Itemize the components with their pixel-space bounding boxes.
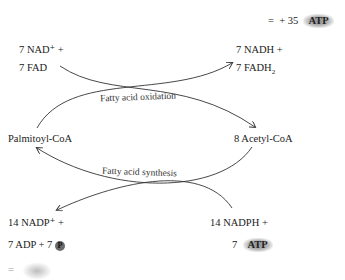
equals-sign: =	[268, 15, 274, 26]
oxidation-output-nadh: 7 NADH +	[236, 44, 283, 56]
synthesis-arrow-to-nadp	[57, 181, 232, 210]
atp-count: 35	[288, 15, 299, 26]
synthesis-input-atp: 7 ATP	[232, 238, 273, 252]
synthesis-output-adp-pi: 7 ADP + 7 P	[8, 239, 65, 251]
palmitoyl-coa: Palmitoyl-CoA	[8, 133, 72, 145]
synthesis-input-nadph: 14 NADPH +	[210, 217, 268, 229]
atp-badge: ATP	[303, 14, 333, 28]
oxidation-output-fadh2: 7 FADH2	[236, 62, 275, 78]
acetyl-coa: 8 Acetyl-CoA	[234, 133, 293, 145]
oxidation-input-fad: 7 FAD	[19, 62, 47, 74]
bottom-cut-text: =	[8, 264, 14, 276]
phosphate-icon: P	[55, 241, 65, 251]
atp-badge-synthesis: ATP	[243, 238, 273, 252]
oxidation-input-nad: 7 NAD⁺ +	[19, 44, 64, 56]
bottom-cut-badge	[22, 262, 52, 280]
synthesis-arrow-to-palmitoyl	[37, 147, 252, 183]
plus-sign: +	[279, 15, 285, 26]
net-atp-summary: = + 35 ATP	[268, 14, 334, 28]
synthesis-output-nadp: 14 NADP⁺ +	[8, 217, 64, 229]
